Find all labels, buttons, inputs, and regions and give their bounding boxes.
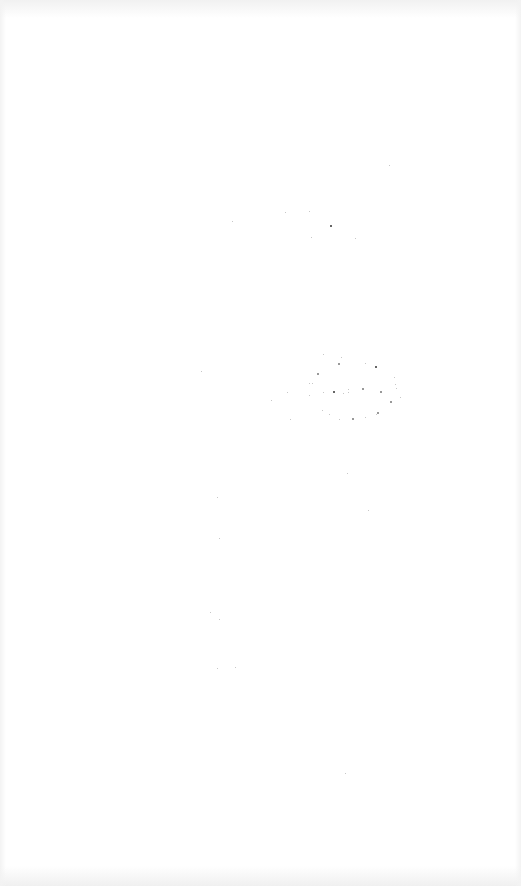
top-edge-shadow (0, 0, 521, 18)
blank-page (0, 0, 521, 886)
bottom-edge-shadow (0, 866, 521, 886)
left-edge-shadow (0, 0, 6, 886)
right-edge-shadow (515, 0, 521, 886)
